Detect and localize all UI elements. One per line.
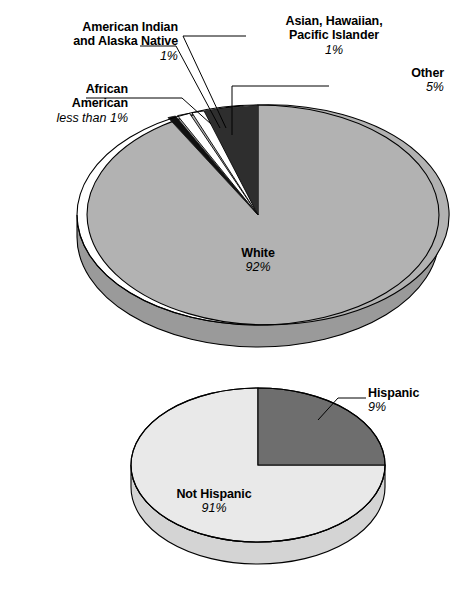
label-hispanic-value: 9% <box>368 400 464 414</box>
label-african-american-line2: American <box>6 96 128 110</box>
label-asian-hawaiian-pacific-islander: Asian, Hawaiian, Pacific Islander 1% <box>248 14 420 57</box>
label-asian-line2: Pacific Islander <box>248 28 420 42</box>
label-not-hispanic: Not Hispanic 91% <box>148 487 280 516</box>
label-american-indian-and-alaska-native: American Indian and Alaska Native 1% <box>6 20 178 63</box>
label-african-american-line1: African <box>6 82 128 96</box>
label-american-indian-line2: and Alaska Native <box>6 34 178 48</box>
ethnicity-slice-hispanic <box>258 388 385 465</box>
label-other: Other 5% <box>330 66 444 95</box>
label-hispanic-line1: Hispanic <box>368 386 464 400</box>
label-african-american: African American less than 1% <box>6 82 128 125</box>
label-other-line1: Other <box>330 66 444 80</box>
label-white-line1: White <box>198 246 318 260</box>
label-asian-value: 1% <box>248 43 420 57</box>
race-slice-white <box>87 105 449 325</box>
label-hispanic: Hispanic 9% <box>368 386 464 415</box>
label-african-american-value: less than 1% <box>6 111 128 125</box>
label-other-value: 5% <box>330 80 444 94</box>
label-american-indian-value: 1% <box>6 49 178 63</box>
label-not-hispanic-line1: Not Hispanic <box>148 487 280 501</box>
label-white-value: 92% <box>198 260 318 274</box>
label-american-indian-line1: American Indian <box>6 20 178 34</box>
ethnicity-pie-chart <box>131 388 385 564</box>
label-asian-line1: Asian, Hawaiian, <box>248 14 420 28</box>
label-white: White 92% <box>198 246 318 275</box>
label-not-hispanic-value: 91% <box>148 501 280 515</box>
figure-root: American Indian and Alaska Native 1% Afr… <box>0 0 468 593</box>
